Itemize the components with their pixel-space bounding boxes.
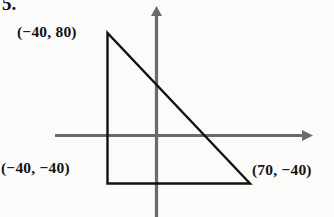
y-axis-arrowhead-icon	[151, 6, 162, 16]
figure-page: 5. (−40, 80) (−40, −40) (70, −40)	[0, 0, 334, 217]
vertex-label-bottom-left: (−40, −40)	[1, 159, 70, 177]
y-axis	[151, 6, 162, 217]
triangle-shape	[108, 33, 251, 184]
vertex-label-bottom-right: (70, −40)	[252, 161, 312, 179]
vertex-label-top-left: (−40, 80)	[17, 23, 77, 41]
triangle-outline	[108, 33, 251, 184]
x-axis-arrowhead-icon	[302, 130, 313, 141]
x-axis	[55, 130, 313, 141]
